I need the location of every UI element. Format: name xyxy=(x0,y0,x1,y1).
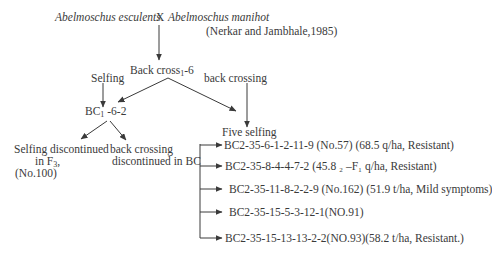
node-backcross-suffix: -6 xyxy=(184,64,194,76)
line2-suffix: , xyxy=(57,155,60,167)
selection-item-4: BC2-35-15-5-3-12-1(NO.91) xyxy=(229,206,363,219)
edge-label-back-crossing: back crossing xyxy=(204,72,267,85)
selection-item-5: BC2-35-15-13-13-2-2(NO.93)(58.2 t/ha, Re… xyxy=(225,232,464,245)
selection-item-2: BC2-35-8-4-4-7-2 (45.8 ₂ –F₁ q/ha, Resis… xyxy=(225,160,436,173)
arrow-to-selfing-discontinued xyxy=(81,121,107,139)
node-backcross: Back cross1-6 xyxy=(130,64,194,77)
parent-male: Abelmoschus manihot xyxy=(168,11,269,24)
selection-item-3: BC2-35-11-8-2-2-9 (No.162) (51.9 t/ha, M… xyxy=(229,183,492,196)
line2-prefix: in F xyxy=(35,155,53,167)
node-backcross-prefix: Back cross xyxy=(130,64,180,76)
arrow-to-backcrossing-discontinued xyxy=(110,121,126,140)
node-five-selfing: Five selfing xyxy=(222,126,277,139)
selection-item-1: BC2-35-6-1-2-11-9 (No.57) (68.5 q/ha, Re… xyxy=(224,139,454,152)
node-selfing-discontinued-line3: (No.100) xyxy=(15,167,57,180)
citation: (Nerkar and Jambhale,1985) xyxy=(206,25,337,38)
node-backcrossing-discontinued-line2: discontinued in BC xyxy=(112,155,201,168)
edge-label-selfing: Selfing xyxy=(91,72,124,85)
node-bc1-suffix: -6-2 xyxy=(104,105,126,117)
node-selfing-discontinued-line1: Selfing discontinued xyxy=(14,143,109,156)
cross-symbol: X xyxy=(156,11,164,24)
arrow-backcross-to-bc1-6-2 xyxy=(118,78,168,102)
node-bc1-6-2: BC1 -6-2 xyxy=(85,105,126,118)
node-bc1-prefix: BC xyxy=(85,105,100,117)
parent-female: Abelmoschus esculents xyxy=(55,11,161,24)
